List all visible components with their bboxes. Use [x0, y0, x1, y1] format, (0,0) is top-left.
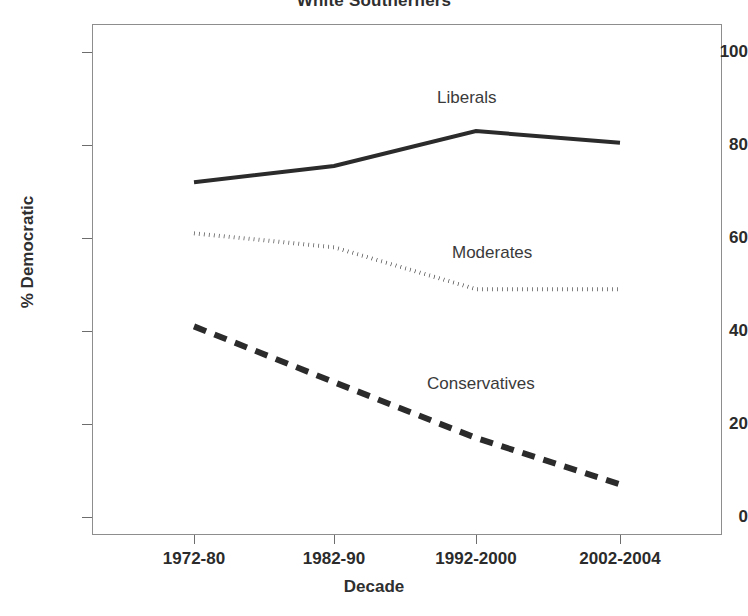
series-line-moderates: [194, 233, 620, 289]
series-label-liberals: Liberals: [437, 88, 497, 108]
chart-container: White Southerners % Democratic Decade 02…: [0, 0, 748, 616]
series-lines: [0, 0, 748, 616]
series-label-moderates: Moderates: [452, 243, 532, 263]
series-label-conservatives: Conservatives: [427, 374, 535, 394]
series-line-liberals: [194, 131, 620, 182]
series-line-conservatives: [194, 326, 620, 484]
